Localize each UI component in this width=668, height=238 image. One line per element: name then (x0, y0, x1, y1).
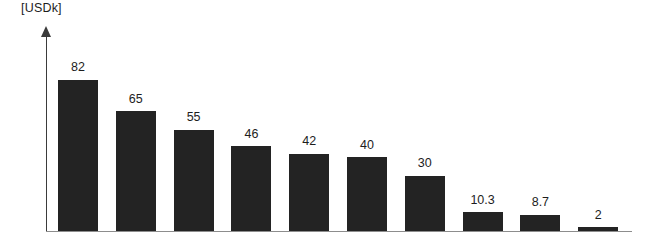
bar-column: 2 (578, 205, 618, 231)
bar-chart: [USDk] 8265554642403010.38.72 (0, 0, 668, 238)
bar-value-label: 46 (244, 128, 258, 141)
plot-area: 8265554642403010.38.72 (0, 0, 668, 238)
bar-rect (58, 80, 98, 231)
bar-value-label: 40 (360, 139, 374, 152)
bar-rect (174, 130, 214, 231)
bar-column: 55 (174, 108, 214, 231)
bar-value-label: 65 (129, 93, 143, 106)
bar-column: 65 (116, 89, 156, 231)
bar-rect (405, 176, 445, 231)
bar-column: 46 (231, 124, 271, 231)
bar-rect (231, 146, 271, 231)
bar-column: 8.7 (520, 193, 560, 231)
bar-rect (116, 111, 156, 231)
bar-value-label: 55 (187, 111, 201, 124)
bar-rect (463, 212, 503, 231)
bar-value-label: 2 (595, 209, 602, 222)
bar-column: 42 (289, 132, 329, 231)
bar-rect (289, 154, 329, 231)
bar-column: 10.3 (463, 190, 503, 231)
bar-value-label: 82 (71, 61, 85, 74)
bar-value-label: 10.3 (470, 194, 494, 207)
bar-value-label: 30 (418, 157, 432, 170)
bar-column: 82 (58, 58, 98, 231)
bar-rect (520, 215, 560, 231)
bar-value-label: 42 (302, 135, 316, 148)
bar-value-label: 8.7 (532, 196, 549, 209)
bar-column: 30 (405, 154, 445, 231)
bar-column: 40 (347, 135, 387, 231)
bar-rect (578, 227, 618, 231)
bar-rect (347, 157, 387, 231)
